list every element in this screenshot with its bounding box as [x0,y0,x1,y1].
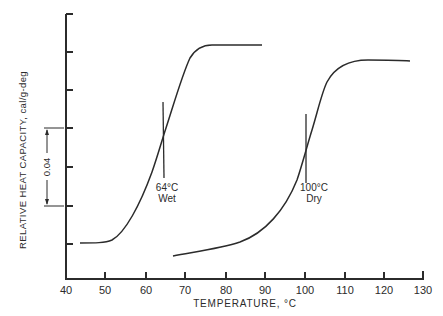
wet-temp-label: 64°C [156,182,178,193]
arrow-up-icon [45,129,49,135]
wet-curve [80,45,262,243]
x-tick-label: 80 [220,284,232,296]
x-tick-label: 60 [140,284,152,296]
scale-bar-label: 0.04 [41,158,52,177]
y-ticks [66,52,73,244]
dry-temp-label: 100°C [300,182,328,193]
arrow-down-icon [45,199,49,205]
x-axis: 40 50 60 70 80 90 100 110 120 130 TEMPER… [60,271,432,309]
wet-name-label: Wet [158,193,176,204]
x-tick-label: 40 [60,284,72,296]
heat-capacity-chart: 40 50 60 70 80 90 100 110 120 130 TEMPER… [0,0,443,316]
x-tick-label: 130 [414,284,432,296]
x-tick-label: 50 [99,284,111,296]
x-axis-label: TEMPERATURE, °C [193,298,297,309]
wet-transition-marker [163,102,164,178]
x-tick-labels: 40 50 60 70 80 90 100 110 120 130 [60,284,432,296]
x-tick-label: 70 [179,284,191,296]
dry-name-label: Dry [306,193,322,204]
scale-bar: 0.04 [41,128,64,206]
x-tick-label: 120 [375,284,393,296]
x-tick-label: 110 [336,284,354,296]
x-ticks [105,271,423,279]
x-tick-label: 100 [296,284,314,296]
x-tick-label: 90 [259,284,271,296]
y-axis-label: RELATIVE HEAT CAPACITY, cal/g-deg [17,71,28,249]
dry-curve [173,60,410,256]
y-axis [66,14,73,279]
